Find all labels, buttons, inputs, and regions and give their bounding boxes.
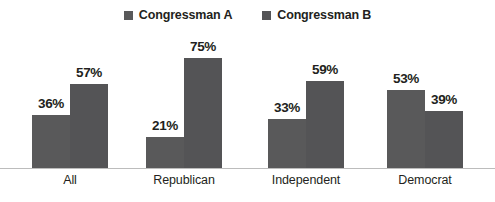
- bar-group: 33%59%Independent: [268, 34, 344, 168]
- bar-column: 21%: [146, 34, 184, 168]
- bar-column: 75%: [184, 34, 222, 168]
- category-label: Republican: [153, 174, 215, 187]
- bar-value-label: 36%: [38, 97, 64, 111]
- bar: [387, 90, 425, 168]
- bar-group-bars: 33%59%: [268, 34, 344, 168]
- plot-area: 36%57%All21%75%Republican33%59%Independe…: [0, 0, 495, 202]
- category-label: Independent: [272, 174, 340, 187]
- category-label: Democrat: [398, 174, 451, 187]
- bar-column: 33%: [268, 34, 306, 168]
- bar-group-bars: 53%39%: [387, 34, 463, 168]
- bar-value-label: 75%: [190, 40, 216, 54]
- axis-baseline: [0, 168, 495, 169]
- bar-value-label: 59%: [312, 63, 338, 77]
- bar: [184, 58, 222, 168]
- bar-value-label: 57%: [76, 66, 102, 80]
- bar: [146, 137, 184, 168]
- bar-value-label: 53%: [393, 72, 419, 86]
- bar-column: 53%: [387, 34, 425, 168]
- bar-column: 57%: [70, 34, 108, 168]
- bar-value-label: 33%: [274, 101, 300, 115]
- bar-column: 39%: [425, 34, 463, 168]
- bar-value-label: 21%: [152, 119, 178, 133]
- bar-group-bars: 36%57%: [32, 34, 108, 168]
- bar: [70, 84, 108, 168]
- bar-group: 53%39%Democrat: [387, 34, 463, 168]
- bar-group: 36%57%All: [32, 34, 108, 168]
- bar-column: 59%: [306, 34, 344, 168]
- bar: [32, 115, 70, 168]
- bar-group-bars: 21%75%: [146, 34, 222, 168]
- bar-group: 21%75%Republican: [146, 34, 222, 168]
- bar: [268, 119, 306, 168]
- category-label: All: [63, 174, 77, 187]
- bar-chart: Congressman A Congressman B 36%57%All21%…: [0, 0, 495, 202]
- bar: [425, 111, 463, 168]
- bar-value-label: 39%: [431, 93, 457, 107]
- bar-column: 36%: [32, 34, 70, 168]
- bar: [306, 81, 344, 168]
